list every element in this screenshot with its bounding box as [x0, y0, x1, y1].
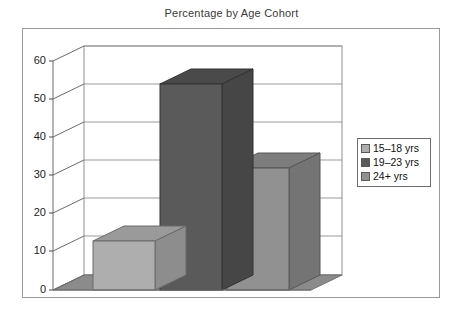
legend: 15–18 yrs 19–23 yrs 24+ yrs [357, 138, 431, 187]
y-axis-depth-30 [53, 160, 84, 175]
legend-label-24-plus: 24+ yrs [373, 171, 408, 182]
y-tick-label-60: 60 [34, 54, 46, 66]
legend-label-15-18: 15–18 yrs [373, 143, 419, 154]
y-axis-depth-20 [53, 198, 84, 213]
y-tick-label-30: 30 [34, 168, 46, 180]
legend-item-15-18[interactable]: 15–18 yrs [361, 141, 427, 155]
y-tick-label-40: 40 [34, 130, 46, 142]
chart-root: Percentage by Age Cohort [0, 0, 463, 320]
y-axis-depth-50 [53, 84, 84, 99]
bar-19-23-side [222, 69, 253, 290]
legend-label-19-23: 19–23 yrs [373, 157, 419, 168]
y-tick-label-10: 10 [34, 244, 46, 256]
bar-15-18[interactable] [93, 226, 186, 290]
y-axis-depth-60 [53, 46, 84, 61]
legend-swatch-15-18-icon [361, 144, 370, 153]
y-axis-ticks [49, 61, 53, 290]
bar-15-18-face [93, 241, 155, 290]
y-tick-label-50: 50 [34, 92, 46, 104]
y-axis [53, 46, 84, 290]
legend-swatch-19-23-icon [361, 158, 370, 167]
y-axis-depth-10 [53, 236, 84, 251]
y-axis-depth-40 [53, 122, 84, 137]
legend-swatch-24-plus-icon [361, 172, 370, 181]
legend-item-19-23[interactable]: 19–23 yrs [361, 155, 427, 169]
legend-item-24-plus[interactable]: 24+ yrs [361, 169, 427, 183]
y-tick-label-0: 0 [40, 283, 46, 295]
y-tick-label-20: 20 [34, 206, 46, 218]
bar-24-plus-side [289, 153, 320, 290]
